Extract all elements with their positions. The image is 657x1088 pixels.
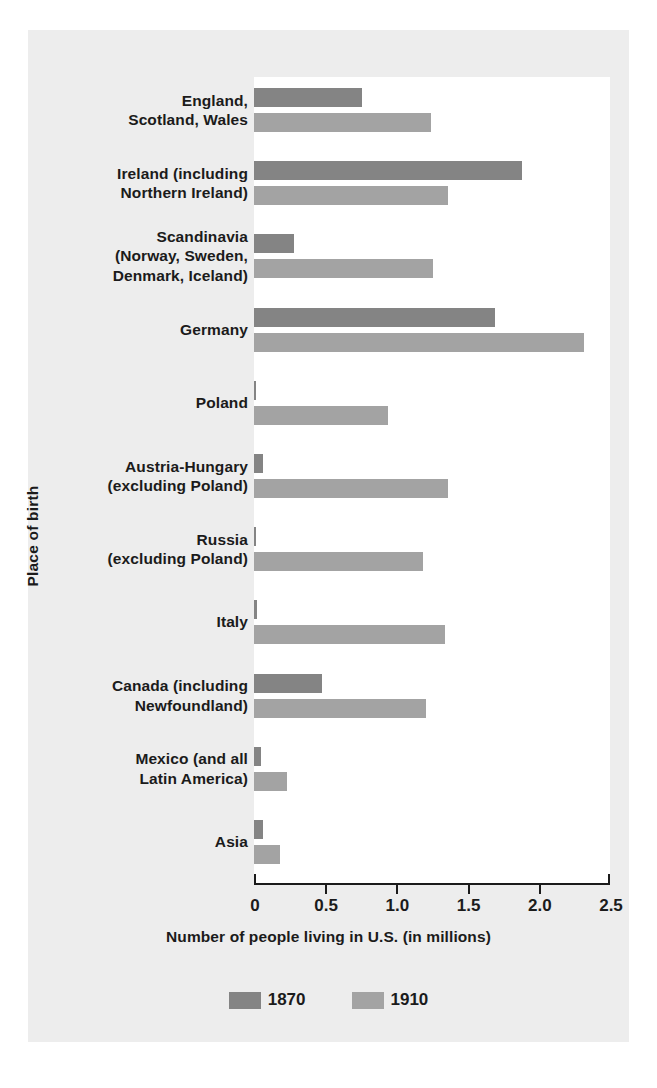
- x-axis-line: [254, 883, 610, 885]
- bar-group: [254, 600, 610, 644]
- category-label: Scandinavia (Norway, Sweden, Denmark, Ic…: [113, 227, 248, 286]
- x-axis-tick: [539, 883, 541, 894]
- bar-1870: [254, 527, 256, 546]
- category-label: Poland: [196, 393, 248, 413]
- x-axis-tick: [325, 883, 327, 894]
- legend-item[interactable]: 1870: [229, 990, 306, 1010]
- bar-group: [254, 88, 610, 132]
- bar-group: [254, 234, 610, 278]
- category-label: Italy: [216, 612, 248, 632]
- category-label: Mexico (and all Latin America): [135, 749, 248, 788]
- bar-1870: [254, 234, 294, 253]
- bar-1870: [254, 820, 263, 839]
- plot-area: [254, 77, 610, 883]
- bar-1870: [254, 161, 522, 180]
- x-axis-tick: [468, 883, 470, 894]
- chart-legend: 18701910: [28, 990, 629, 1010]
- legend-label: 1910: [391, 990, 429, 1010]
- x-axis-tick-label: 1.0: [367, 896, 427, 916]
- legend-swatch-1910: [352, 992, 384, 1009]
- bar-1910: [254, 625, 445, 644]
- bar-1870: [254, 674, 322, 693]
- bar-1870: [254, 454, 263, 473]
- category-label: Ireland (including Northern Ireland): [117, 164, 248, 203]
- x-axis-tick: [254, 874, 256, 885]
- bar-1870: [254, 381, 256, 400]
- bar-1910: [254, 479, 448, 498]
- x-axis-title: Number of people living in U.S. (in mill…: [28, 928, 629, 946]
- bar-1870: [254, 88, 362, 107]
- bar-group: [254, 308, 610, 352]
- bar-group: [254, 161, 610, 205]
- x-axis-tick-label: 0.5: [296, 896, 356, 916]
- legend-item[interactable]: 1910: [352, 990, 429, 1010]
- category-label: Austria-Hungary (excluding Poland): [108, 457, 248, 496]
- y-axis-title: Place of birth: [22, 30, 44, 1042]
- bar-1870: [254, 600, 257, 619]
- category-label: Russia (excluding Poland): [108, 530, 248, 569]
- bar-1910: [254, 113, 431, 132]
- bar-1910: [254, 259, 433, 278]
- x-axis-tick-label: 0: [225, 896, 285, 916]
- bar-1910: [254, 552, 423, 571]
- x-axis-tick: [396, 883, 398, 894]
- bar-1910: [254, 406, 388, 425]
- category-label: Asia: [215, 832, 248, 852]
- bar-1910: [254, 333, 584, 352]
- legend-label: 1870: [268, 990, 306, 1010]
- category-label: England, Scotland, Wales: [128, 91, 248, 130]
- legend-swatch-1870: [229, 992, 261, 1009]
- bar-group: [254, 674, 610, 718]
- x-axis-tick-label: 2.0: [510, 896, 570, 916]
- bar-1910: [254, 699, 426, 718]
- bar-group: [254, 820, 610, 864]
- bar-group: [254, 527, 610, 571]
- bar-group: [254, 454, 610, 498]
- chart-figure: Place of birth England, Scotland, WalesI…: [28, 30, 629, 1042]
- category-label: Germany: [180, 320, 248, 340]
- bar-1910: [254, 845, 280, 864]
- bar-1870: [254, 747, 261, 766]
- x-axis-tick: [608, 874, 610, 885]
- bar-group: [254, 381, 610, 425]
- bar-group: [254, 747, 610, 791]
- bar-1870: [254, 308, 495, 327]
- x-axis-tick-label: 2.5: [581, 896, 641, 916]
- x-axis-tick-label: 1.5: [439, 896, 499, 916]
- bar-1910: [254, 186, 448, 205]
- bar-1910: [254, 772, 287, 791]
- category-label: Canada (including Newfoundland): [112, 676, 248, 715]
